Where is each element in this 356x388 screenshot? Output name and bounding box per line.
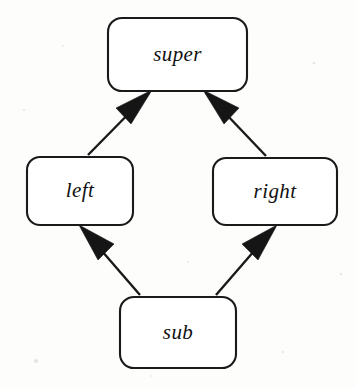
edge-left-to-super[interactable] xyxy=(88,90,152,155)
edge-sub-to-left-arrowhead xyxy=(79,225,114,260)
edge-sub-to-right-arrowhead xyxy=(242,225,277,260)
node-left-label: left xyxy=(66,178,95,202)
edge-right-to-super[interactable] xyxy=(203,90,266,156)
node-right[interactable]: right xyxy=(213,158,337,225)
node-super[interactable]: super xyxy=(108,18,247,91)
edge-left-to-super-arrowhead xyxy=(116,90,152,124)
node-super-label: super xyxy=(153,42,202,66)
diagram-canvas: super left right sub xyxy=(0,0,356,388)
edge-sub-to-left[interactable] xyxy=(79,225,140,295)
edge-right-to-super-arrowhead xyxy=(203,90,239,124)
node-sub[interactable]: sub xyxy=(120,297,236,368)
inheritance-lattice-diagram: super left right sub xyxy=(0,0,356,388)
node-left[interactable]: left xyxy=(27,157,133,225)
node-sub-label: sub xyxy=(163,320,193,344)
edge-sub-to-right[interactable] xyxy=(216,225,277,295)
node-right-label: right xyxy=(254,179,298,203)
